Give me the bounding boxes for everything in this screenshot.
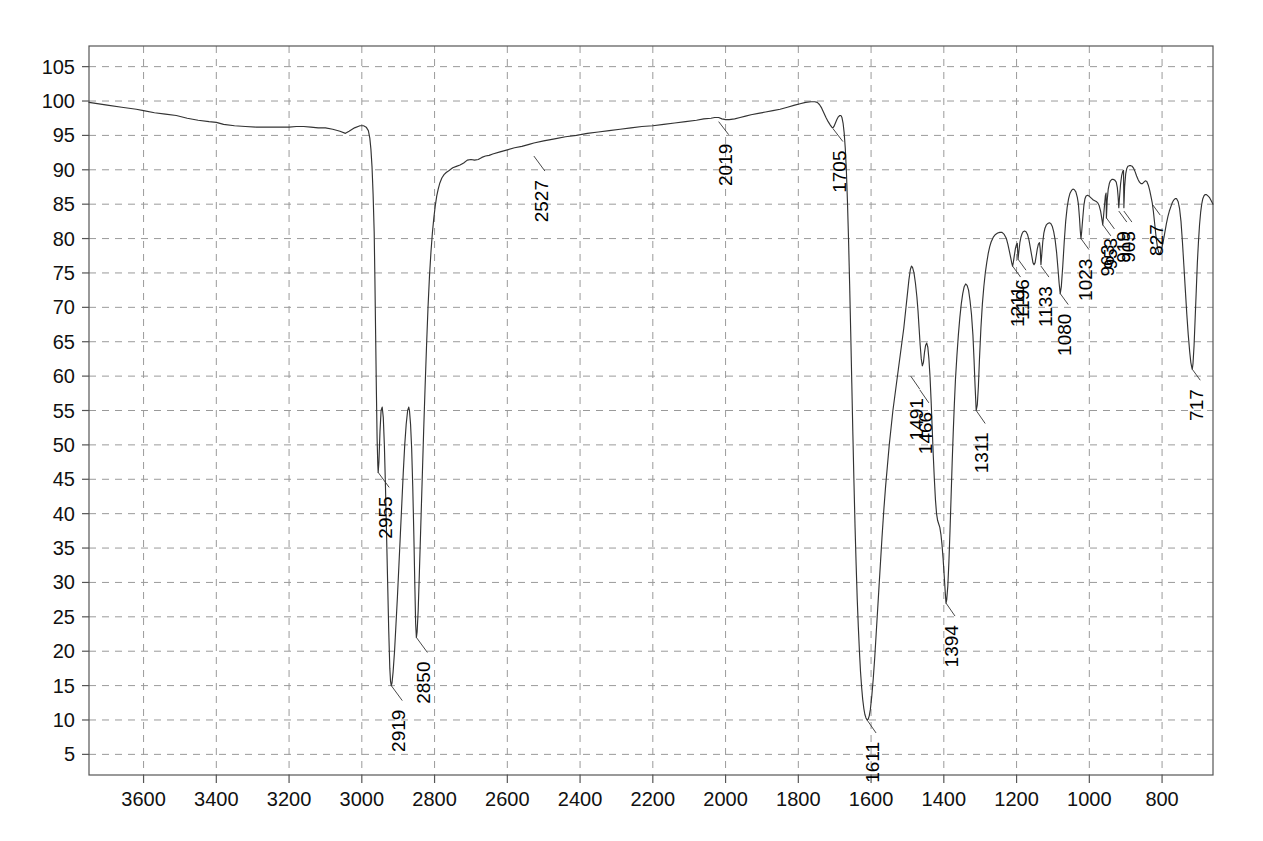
x-tick-label: 800	[1145, 788, 1178, 810]
x-tick-label: 1000	[1067, 788, 1112, 810]
x-tick-label: 2400	[558, 788, 603, 810]
spectrum-plot: 5101520253035404550556065707580859095100…	[0, 0, 1263, 841]
peak-label: 1394	[941, 625, 962, 668]
x-tick-label: 2800	[412, 788, 457, 810]
peak-label: 1611	[862, 742, 883, 783]
y-tick-label: 40	[53, 503, 75, 525]
x-tick-label: 2000	[703, 788, 748, 810]
x-tick-label: 1600	[849, 788, 894, 810]
x-tick-label: 3000	[340, 788, 385, 810]
peak-label: 1466	[915, 412, 936, 454]
y-tick-label: 15	[53, 675, 75, 697]
x-tick-label: 3400	[194, 788, 239, 810]
y-tick-marks	[82, 67, 89, 755]
y-tick-label: 60	[53, 365, 75, 387]
peak-label: 1196	[1012, 279, 1033, 320]
x-axis-tick-labels: 3600340032003000280026002400220020001800…	[121, 788, 1178, 810]
y-tick-label: 80	[53, 228, 75, 250]
y-tick-label: 75	[53, 262, 75, 284]
peak-label: 2527	[531, 180, 552, 222]
y-tick-label: 85	[53, 193, 75, 215]
chart-background	[0, 0, 1263, 841]
x-tick-label: 2600	[485, 788, 530, 810]
peak-label: 2955	[375, 496, 396, 538]
peak-label: 1705	[829, 151, 850, 193]
y-tick-label: 30	[53, 571, 75, 593]
peak-label: 1133	[1035, 286, 1056, 327]
y-tick-label: 70	[53, 296, 75, 318]
y-tick-label: 105	[42, 56, 75, 78]
y-tick-label: 5	[64, 743, 75, 765]
y-tick-label: 90	[53, 159, 75, 181]
y-tick-label: 20	[53, 640, 75, 662]
peak-label: 827	[1146, 224, 1167, 256]
x-tick-label: 3200	[267, 788, 312, 810]
y-tick-label: 100	[42, 90, 75, 112]
y-tick-label: 55	[53, 400, 75, 422]
x-tick-label: 3600	[121, 788, 166, 810]
peak-label: 1311	[971, 433, 992, 474]
peak-label: 1023	[1075, 259, 1096, 301]
peak-label: 1080	[1054, 314, 1075, 356]
ir-spectrum-chart: 5101520253035404550556065707580859095100…	[0, 0, 1263, 841]
y-tick-label: 45	[53, 468, 75, 490]
peak-label: 717	[1186, 389, 1207, 421]
y-tick-label: 50	[53, 434, 75, 456]
y-tick-label: 25	[53, 606, 75, 628]
x-tick-label: 1400	[922, 788, 967, 810]
y-tick-label: 95	[53, 124, 75, 146]
y-tick-label: 65	[53, 331, 75, 353]
y-tick-label: 35	[53, 537, 75, 559]
peak-label: 2919	[388, 710, 409, 752]
x-tick-label: 1800	[776, 788, 821, 810]
y-tick-label: 10	[53, 709, 75, 731]
peak-label: 2019	[715, 144, 736, 186]
peak-label: 2850	[413, 662, 434, 704]
peak-label: 905	[1118, 231, 1139, 263]
x-tick-label: 1200	[994, 788, 1039, 810]
x-tick-label: 2200	[631, 788, 676, 810]
